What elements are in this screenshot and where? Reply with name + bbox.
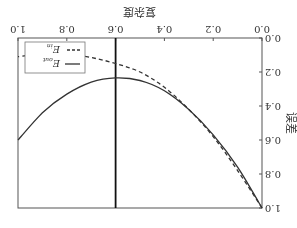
x-tick-label: 0.6 bbox=[108, 24, 124, 35]
y-tick-label: 0.6 bbox=[265, 135, 281, 146]
e-out-curve bbox=[18, 78, 262, 208]
e-in-curve bbox=[18, 54, 262, 208]
y-tick-label: 1.0 bbox=[265, 203, 281, 214]
x-tick-label: 0.8 bbox=[59, 24, 75, 35]
chart-container: 0.00.20.40.60.81.0 0.00.20.40.60.81.0 复杂… bbox=[0, 0, 297, 228]
y-axis-label: 误差 bbox=[284, 112, 297, 134]
y-tick-label: 0.4 bbox=[265, 101, 281, 112]
line-chart: 0.00.20.40.60.81.0 0.00.20.40.60.81.0 复杂… bbox=[0, 0, 297, 228]
legend: Eout Ein bbox=[25, 42, 85, 73]
y-tick-label: 0.0 bbox=[265, 33, 281, 44]
y-tick-label: 0.2 bbox=[265, 67, 281, 78]
x-tick-label: 1.0 bbox=[10, 24, 26, 35]
x-tick-label: 0.4 bbox=[156, 24, 172, 35]
x-tick-label: 0.2 bbox=[205, 24, 221, 35]
x-axis-label: 复杂度 bbox=[124, 5, 157, 19]
y-tick-label: 0.8 bbox=[265, 169, 281, 180]
